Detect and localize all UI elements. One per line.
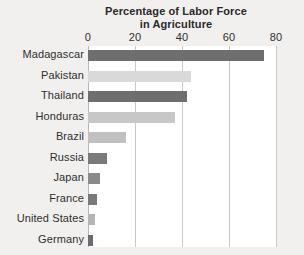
- category-axis-labels: MadagascarPakistanThailandHondurasBrazil…: [0, 46, 84, 247]
- x-tick-label-80: 80: [270, 31, 283, 43]
- x-tick-label-40: 40: [176, 31, 189, 43]
- category-label-japan: Japan: [0, 171, 84, 183]
- category-label-brazil: Brazil: [0, 130, 84, 142]
- category-label-russia: Russia: [0, 151, 84, 163]
- chart-title-line-2: in Agriculture: [62, 18, 290, 31]
- bar-france: [88, 194, 97, 205]
- category-label-germany: Germany: [0, 233, 84, 245]
- category-label-madagascar: Madagascar: [0, 48, 84, 60]
- bar-pakistan: [88, 71, 191, 82]
- x-axis-tick-labels: 020406080: [0, 31, 304, 45]
- bar-united-states: [88, 214, 95, 225]
- x-tick-label-20: 20: [129, 31, 142, 43]
- category-label-france: France: [0, 192, 84, 204]
- bar-honduras: [88, 112, 175, 123]
- x-tick-label-0: 0: [85, 31, 91, 43]
- x-tick-label-60: 60: [223, 31, 236, 43]
- bar-russia: [88, 153, 107, 164]
- chart-title: Percentage of Labor Force in Agriculture: [62, 5, 290, 31]
- bar-germany: [88, 235, 93, 246]
- category-label-united-states: United States: [0, 212, 84, 224]
- bar-chart: Percentage of Labor Force in Agriculture…: [0, 0, 304, 255]
- bar-thailand: [88, 91, 187, 102]
- bars-layer: [88, 46, 304, 247]
- bar-brazil: [88, 132, 126, 143]
- category-label-honduras: Honduras: [0, 110, 84, 122]
- category-label-pakistan: Pakistan: [0, 69, 84, 81]
- category-label-thailand: Thailand: [0, 89, 84, 101]
- bar-madagascar: [88, 50, 264, 61]
- bar-japan: [88, 173, 100, 184]
- chart-title-line-1: Percentage of Labor Force: [105, 5, 247, 17]
